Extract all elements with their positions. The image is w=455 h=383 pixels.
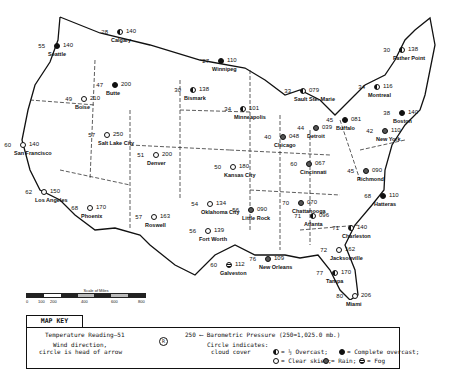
pressure-reading: 067 xyxy=(315,160,325,166)
rain-icon xyxy=(323,358,329,364)
rain-cover-icon xyxy=(298,200,304,206)
pressure-reading: 139 xyxy=(214,227,224,233)
half-cover-icon xyxy=(310,213,316,219)
pressure-reading: 200 xyxy=(162,151,172,157)
temperature-reading: 72 xyxy=(320,247,327,253)
city-label: Seattle xyxy=(48,51,66,57)
clear-cover-icon xyxy=(153,152,159,158)
half-cover-icon xyxy=(240,106,246,112)
legend-rain: = Rain; xyxy=(323,357,356,364)
circle-label-2: cloud cover xyxy=(211,348,251,355)
scale-tick: 200 xyxy=(50,299,57,304)
half-cover-icon xyxy=(374,84,380,90)
key-station-symbol: R xyxy=(159,337,170,346)
scale-tick: 600 xyxy=(111,299,118,304)
circle-label-1: Circle indicates: xyxy=(207,341,268,348)
clear-cover-icon xyxy=(41,189,47,195)
pressure-reading: 170 xyxy=(96,204,106,210)
pressure-reading: 048 xyxy=(289,133,299,139)
temperature-reading: 44 xyxy=(297,125,304,131)
city-label: Little Rock xyxy=(242,215,270,221)
temperature-reading: 28 xyxy=(101,29,108,35)
temperature-reading: 40 xyxy=(264,134,271,140)
full-cover-icon xyxy=(380,193,386,199)
pressure-reading: 096 xyxy=(319,212,329,218)
city-label: Denver xyxy=(147,160,166,166)
city-label: Kansas City xyxy=(224,172,256,178)
pressure-reading: 079 xyxy=(309,87,319,93)
temperature-reading: 54 xyxy=(191,201,198,207)
clear-cover-icon xyxy=(336,247,342,253)
scale-tick: 100 xyxy=(38,299,45,304)
temperature-reading: 60 xyxy=(210,262,217,268)
temperature-reading: 62 xyxy=(25,189,32,195)
temperature-reading: 80 xyxy=(336,293,343,299)
temperature-reading: 68 xyxy=(364,193,371,199)
pressure-reading: 140 xyxy=(126,28,136,34)
pressure-reading: 150 xyxy=(50,188,60,194)
city-label: New York xyxy=(376,136,401,142)
city-label: Tampa xyxy=(326,278,343,284)
temperature-reading: 71 xyxy=(332,225,339,231)
pressure-reading: 140 xyxy=(63,42,73,48)
temperature-reading: 57 xyxy=(135,214,142,220)
pressure-reading: 090 xyxy=(372,167,382,173)
half-cover-icon xyxy=(348,225,354,231)
temperature-reading: 57 xyxy=(88,132,95,138)
city-label: Detroit xyxy=(307,133,325,139)
city-label: San Francisco xyxy=(14,150,52,156)
city-label: Roswell xyxy=(145,222,166,228)
state-borders xyxy=(30,60,405,250)
clear-cover-icon xyxy=(81,96,87,102)
full-cover-icon xyxy=(218,58,224,64)
city-label: Chicago xyxy=(274,142,296,148)
pressure-reading: 163 xyxy=(160,213,170,219)
pressure-reading: 101 xyxy=(249,105,259,111)
rain-cover-icon xyxy=(306,161,312,167)
temperature-reading: 77 xyxy=(316,270,323,276)
clear-cover-icon xyxy=(205,228,211,234)
half-cover-icon xyxy=(117,29,123,35)
half-cover-icon xyxy=(300,88,306,94)
pressure-reading: 200 xyxy=(121,81,131,87)
wind-label-1: Wind direction, xyxy=(53,341,107,348)
half-cover-icon xyxy=(332,270,338,276)
full-cover-icon xyxy=(54,43,60,49)
city-label: Montreal xyxy=(368,92,391,98)
city-label: Calgary xyxy=(111,37,131,43)
temperature-reading: 30 xyxy=(174,87,181,93)
temperature-reading: 42 xyxy=(366,128,373,134)
city-label: Richmond xyxy=(357,176,384,182)
pressure-reading: 116 xyxy=(383,83,393,89)
rain-cover-icon xyxy=(382,128,388,134)
city-label: Bismark xyxy=(184,95,206,101)
city-label: Atlanta xyxy=(304,221,323,227)
city-label: Jacksonville xyxy=(330,255,363,261)
pressure-reading: 110 xyxy=(227,57,237,63)
city-label: Boston xyxy=(393,118,412,124)
pressure-reading: 081 xyxy=(351,116,361,122)
temperature-reading: 56 xyxy=(232,207,239,213)
fog-cover-icon xyxy=(226,262,232,268)
pressure-reading: 110 xyxy=(389,192,399,198)
pressure-reading: 138 xyxy=(408,46,418,52)
city-label: Hatteras xyxy=(374,201,396,207)
pressure-label: 250 ⟵ Barometric Pressure (250=1,025.0 m… xyxy=(185,331,340,338)
scale-tick: 400 xyxy=(81,299,88,304)
scale-of-miles: Scale of Miles 0 100 200 400 600 800 xyxy=(26,288,146,304)
half-overcast-icon xyxy=(273,349,279,355)
complete-overcast-icon xyxy=(339,349,345,355)
pressure-reading: 140 xyxy=(408,109,418,115)
rain-cover-icon xyxy=(280,134,286,140)
clear-cover-icon xyxy=(20,142,26,148)
clear-cover-icon xyxy=(104,132,110,138)
pressure-reading: 180 xyxy=(239,163,249,169)
temperature-reading: 47 xyxy=(96,82,103,88)
temperature-reading: 45 xyxy=(347,168,354,174)
legend-fog: = Fog xyxy=(359,357,385,364)
clear-cover-icon xyxy=(151,214,157,220)
city-label: Sault Ste. Marie xyxy=(294,96,335,102)
pressure-reading: 170 xyxy=(341,269,351,275)
clear-skies-icon xyxy=(273,358,279,364)
temperature-reading: 30 xyxy=(383,47,390,53)
